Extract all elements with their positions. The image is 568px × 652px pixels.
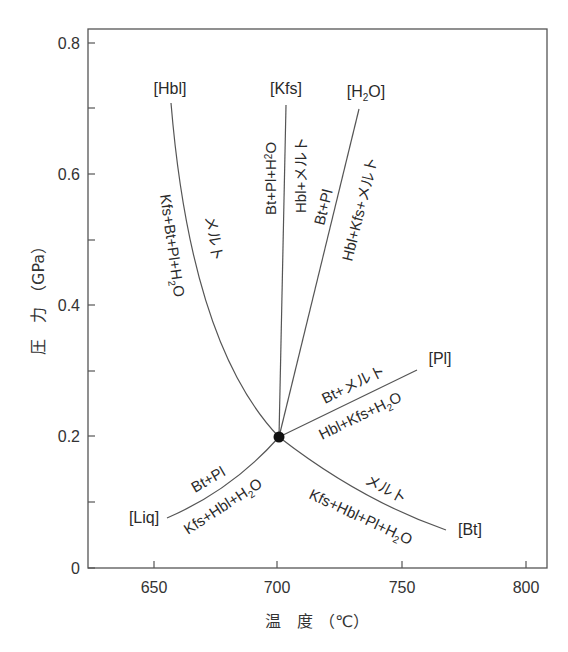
x-axis-ticks [154,561,526,568]
y-tick-0: 0 [71,560,80,577]
y-tick-0.2: 0.2 [58,428,80,445]
label-pl: [Pl] [428,350,451,367]
y-axis-ticks [88,43,95,568]
label-liq: [Liq] [129,509,159,526]
y-axis-title: 圧 力（GPa） [29,238,48,355]
curve-kfs [279,105,286,437]
x-tick-650: 650 [141,579,168,596]
hbl-left-assemblage: Kfs+Bt+Pl+H2O [154,193,188,298]
y-tick-0.4: 0.4 [58,297,80,314]
label-h2o: [H2O] [347,83,385,103]
kfs-left-assemblage: Bt+Pl+H2O [262,142,279,215]
kfs-right-assemblage: Hbl+メルト [292,137,309,213]
hbl-right-assemblage: メルト [202,215,227,262]
label-kfs: [Kfs] [270,80,302,97]
y-axis-tick-labels: 0 0.2 0.4 0.6 0.8 [58,35,80,577]
h2o-right-assemblage: Hbl+Kfs+メルト [338,155,380,263]
x-axis-title: 温 度（℃） [265,612,369,631]
liq-above-assemblage: Bt+Pl [188,463,228,496]
x-tick-800: 800 [513,579,540,596]
x-tick-750: 750 [389,579,416,596]
x-tick-700: 700 [264,579,291,596]
phase-diagram: 0 0.2 0.4 0.6 0.8 650 700 750 800 温 度（℃）… [0,0,568,652]
y-tick-0.6: 0.6 [58,166,80,183]
label-hbl: [Hbl] [154,80,187,97]
label-bt: [Bt] [458,521,482,538]
invariant-point [274,432,285,443]
x-axis-tick-labels: 650 700 750 800 [141,579,540,596]
bt-above-assemblage: メルト [363,471,411,507]
y-tick-0.8: 0.8 [58,35,80,52]
